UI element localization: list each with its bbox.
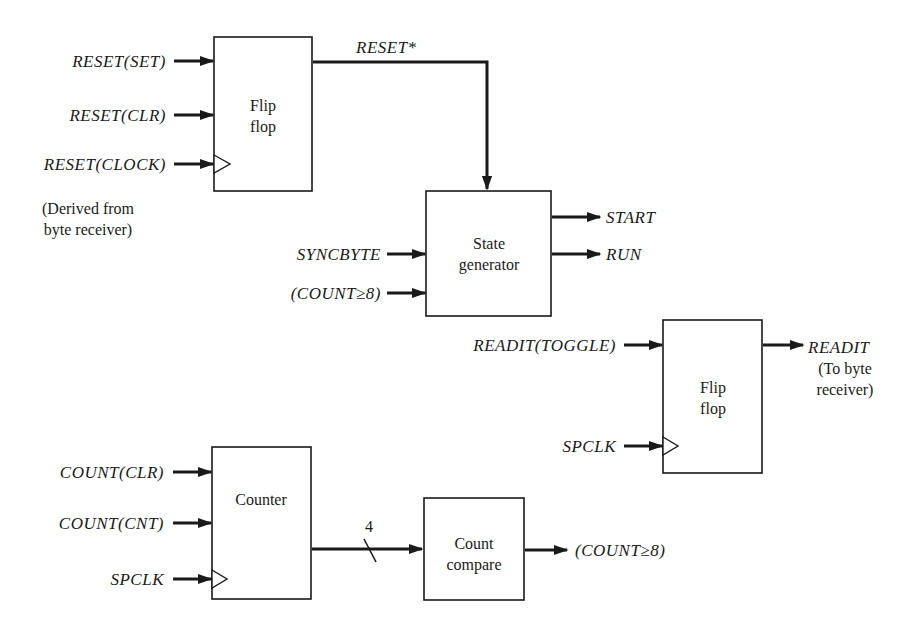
count-cnt-input: COUNT(CNT) bbox=[59, 514, 211, 533]
state-generator: State generator bbox=[426, 191, 551, 316]
count-ge8-input-label: (COUNT≥8) bbox=[291, 284, 381, 303]
reset-flip-flop-label-1: Flip bbox=[250, 97, 276, 115]
counter: Counter bbox=[212, 447, 311, 599]
count-bus: 4 bbox=[312, 518, 422, 562]
readit-label: READIT bbox=[807, 338, 871, 357]
start-label: START bbox=[606, 208, 656, 227]
spclk-ff-input: SPCLK bbox=[562, 437, 662, 456]
count-ge8-output-label: (COUNT≥8) bbox=[575, 541, 665, 560]
start-output: START bbox=[552, 208, 656, 227]
readit-note-line1: (To byte bbox=[818, 360, 872, 378]
count-clr-input: COUNT(CLR) bbox=[60, 463, 211, 482]
reset-clock-label: RESET(CLOCK) bbox=[43, 155, 166, 174]
syncbyte-input: SYNCBYTE bbox=[297, 245, 425, 264]
state-generator-label-1: State bbox=[473, 235, 505, 252]
reset-flip-flop: Flip flop bbox=[214, 37, 312, 191]
readit-flip-flop-label-2: flop bbox=[700, 400, 726, 418]
reset-set-input: RESET(SET) bbox=[71, 52, 213, 71]
count-compare-label-2: compare bbox=[446, 556, 501, 574]
readit-flip-flop-label-1: Flip bbox=[700, 379, 726, 397]
bus-width-label: 4 bbox=[365, 518, 373, 535]
state-generator-box bbox=[426, 191, 551, 316]
count-cnt-label: COUNT(CNT) bbox=[59, 514, 164, 533]
block-diagram: Flip flop RESET(SET) RESET(CLR) RESET(CL… bbox=[0, 0, 904, 636]
spclk-ff-label: SPCLK bbox=[562, 437, 617, 456]
count-compare: Count compare bbox=[424, 498, 524, 600]
counter-box bbox=[212, 447, 311, 599]
count-compare-label-1: Count bbox=[454, 535, 494, 552]
derived-note-line1: (Derived from bbox=[42, 200, 135, 218]
reset-clock-input: RESET(CLOCK) bbox=[43, 155, 213, 174]
derived-note-line2: byte receiver) bbox=[44, 221, 132, 239]
run-label: RUN bbox=[605, 245, 643, 264]
reset-star-wire: RESET* bbox=[313, 38, 487, 189]
readit-toggle-input: READIT(TOGGLE) bbox=[472, 336, 662, 355]
count-ge8-output: (COUNT≥8) bbox=[525, 541, 665, 560]
readit-output: READIT (To byte receiver) bbox=[763, 338, 873, 399]
readit-note-line2: receiver) bbox=[817, 381, 874, 399]
readit-toggle-label: READIT(TOGGLE) bbox=[472, 336, 616, 355]
readit-flip-flop: Flip flop bbox=[663, 320, 762, 473]
arrow-icon bbox=[313, 62, 487, 189]
spclk-counter-input: SPCLK bbox=[110, 570, 211, 589]
readit-flip-flop-box bbox=[663, 320, 762, 473]
counter-label: Counter bbox=[235, 491, 287, 508]
run-output: RUN bbox=[552, 245, 643, 264]
reset-set-label: RESET(SET) bbox=[71, 52, 166, 71]
reset-star-label: RESET* bbox=[355, 38, 417, 57]
reset-clr-input: RESET(CLR) bbox=[68, 106, 213, 125]
count-clr-label: COUNT(CLR) bbox=[60, 463, 164, 482]
spclk-counter-label: SPCLK bbox=[110, 570, 165, 589]
state-generator-label-2: generator bbox=[459, 256, 520, 274]
reset-clr-label: RESET(CLR) bbox=[68, 106, 166, 125]
syncbyte-label: SYNCBYTE bbox=[297, 245, 381, 264]
count-ge8-input: (COUNT≥8) bbox=[291, 284, 425, 303]
reset-flip-flop-label-2: flop bbox=[250, 118, 276, 136]
reset-flip-flop-box bbox=[214, 37, 312, 191]
